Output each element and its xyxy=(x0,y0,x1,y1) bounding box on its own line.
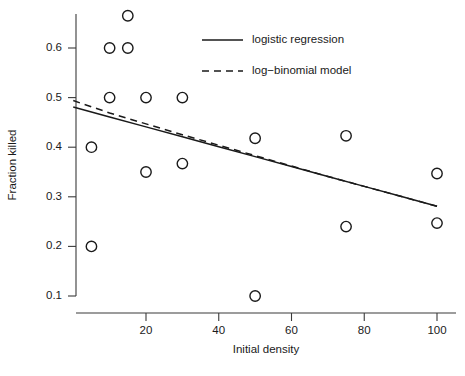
legend: logistic regression log−binomial model xyxy=(202,33,351,76)
y-tick-label: 0.6 xyxy=(46,41,62,53)
plot-canvas: 0.10.20.30.40.50.6 20406080100 logistic … xyxy=(0,0,465,376)
data-point xyxy=(141,92,151,102)
scatter-plot-figure: 0.10.20.30.40.50.6 20406080100 logistic … xyxy=(0,0,465,376)
data-point xyxy=(123,43,133,53)
data-point xyxy=(86,142,96,152)
data-points-group xyxy=(86,11,442,302)
regression-line-log-binomial xyxy=(73,101,437,207)
data-point xyxy=(250,133,260,143)
legend-label-log-binomial: log−binomial model xyxy=(252,64,351,76)
regression-line-logistic xyxy=(73,107,437,206)
data-point xyxy=(341,221,351,231)
data-point xyxy=(432,218,442,228)
data-point xyxy=(104,43,114,53)
y-tick-label: 0.3 xyxy=(46,190,62,202)
data-point xyxy=(141,167,151,177)
data-point xyxy=(123,11,133,21)
data-point xyxy=(86,241,96,251)
data-point xyxy=(250,291,260,301)
x-axis-title: Initial density xyxy=(233,343,300,355)
y-tick-label: 0.4 xyxy=(46,140,63,152)
data-point xyxy=(104,92,114,102)
y-tick-label: 0.2 xyxy=(46,239,62,251)
y-axis-title: Fraction killed xyxy=(6,130,18,201)
x-tick-label: 60 xyxy=(285,324,298,336)
data-point xyxy=(341,131,351,141)
x-tick-label: 40 xyxy=(212,324,225,336)
y-tick-label: 0.5 xyxy=(46,91,62,103)
data-point xyxy=(177,158,187,168)
y-tick-label: 0.1 xyxy=(46,289,62,301)
data-point xyxy=(177,92,187,102)
x-tick-label: 100 xyxy=(427,324,446,336)
y-tick-group: 0.10.20.30.40.50.6 xyxy=(46,41,76,301)
x-tick-group: 20406080100 xyxy=(140,313,447,336)
data-point xyxy=(432,168,442,178)
x-tick-label: 80 xyxy=(358,324,371,336)
legend-label-logistic: logistic regression xyxy=(252,33,344,45)
regression-lines-group xyxy=(73,101,437,207)
x-tick-label: 20 xyxy=(140,324,153,336)
